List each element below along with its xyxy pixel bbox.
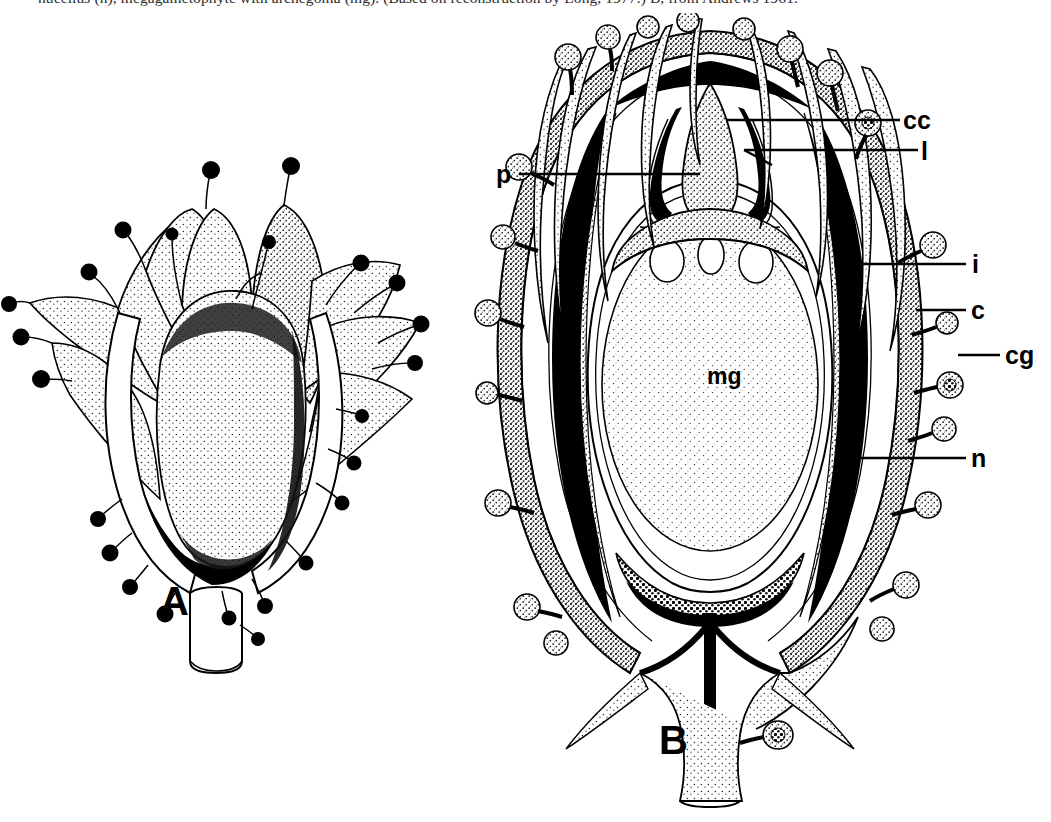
label-i: i (972, 252, 979, 277)
label-c: c (971, 298, 985, 323)
panel-label-a: A (160, 581, 189, 621)
figure-caption-strip: nucellus (n), megagametophyte with arche… (0, 0, 1051, 13)
label-n: n (971, 446, 986, 471)
figure-caption-line: nucellus (n), megagametophyte with arche… (38, 0, 1048, 6)
label-p: p (496, 162, 511, 187)
panel-label-b: B (659, 720, 688, 760)
label-l: l (921, 139, 928, 164)
figure-canvas: cc l p i c cg n mg A B (0, 13, 1051, 822)
label-mg: mg (707, 365, 742, 388)
botanical-illustration (0, 13, 1051, 822)
label-cg: cg (1005, 343, 1034, 368)
label-cc: cc (903, 108, 931, 133)
